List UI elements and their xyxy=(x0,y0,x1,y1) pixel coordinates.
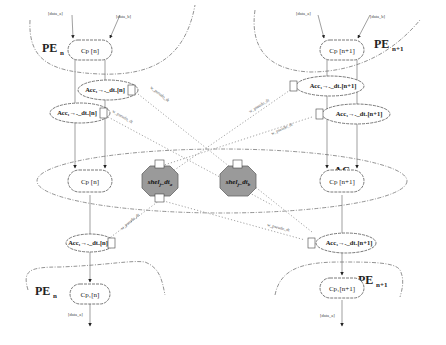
link-label-5: w_pseudo_dt xyxy=(119,212,140,231)
link-label-2: w_pseudo_dt xyxy=(112,109,135,125)
input-label-tr-a: [data_a] xyxy=(296,11,311,16)
svg-text:Acc₁→ₐ_dtₐ[n+1]: Acc₁→ₐ_dtₐ[n+1] xyxy=(326,239,373,247)
shelter-right: shelj_dtb xyxy=(220,160,256,196)
svg-text:Cp [n+1]: Cp [n+1] xyxy=(329,178,355,186)
dotted-link-6 xyxy=(160,200,305,240)
input-label-tl-a: [data_a] xyxy=(48,11,63,16)
node-cp-n1-top: Cp [n+1] xyxy=(320,40,364,60)
diagram-canvas: PE n PE n+1 PE n PE n+1 AC m [data_a] [d… xyxy=(0,0,446,345)
svg-text:PE: PE xyxy=(35,284,50,298)
pe-label-bottom-left: PE n xyxy=(35,284,57,300)
shelter-left-port-top xyxy=(155,160,164,168)
node-acc-n1-c: Acc₁→ₐ_dtₐ[n+1] xyxy=(308,233,376,253)
svg-text:n+1: n+1 xyxy=(392,45,404,53)
input-arrow-tr-a xyxy=(318,15,324,38)
shelter-right-port-top xyxy=(233,160,242,168)
node-cp-n1-mid: Cp [n+1] xyxy=(320,170,364,192)
svg-text:Cp [n]: Cp [n] xyxy=(81,47,99,55)
node-acc-n-a: Acc₁→ₐ_dtₐ[n] xyxy=(78,80,138,100)
svg-text:Acc₁→ₐ_dtₐ[n]: Acc₁→ₐ_dtₐ[n] xyxy=(85,86,125,94)
output-label-bl: [data_a] xyxy=(68,312,83,317)
svg-text:Acc₁→ₐ_dtₐ[n+1]: Acc₁→ₐ_dtₐ[n+1] xyxy=(310,82,357,90)
svg-text:n+1: n+1 xyxy=(376,281,388,289)
svg-text:Acc₁→ₐ_dtₐ[n]: Acc₁→ₐ_dtₐ[n] xyxy=(68,239,108,247)
node-cp-n-bot: Cp₁[n] xyxy=(70,284,110,304)
input-label-tl-b: [data_b] xyxy=(116,14,131,19)
svg-text:n: n xyxy=(53,292,57,300)
link-label-4: w_pseudo_dt xyxy=(270,121,294,136)
svg-text:Cp [n+1]: Cp [n+1] xyxy=(329,47,355,55)
svg-text:PE: PE xyxy=(374,37,389,51)
node-acc-n-c: Acc₁→ₐ_dtₐ[n] xyxy=(66,234,115,252)
svg-text:Cp [n]: Cp [n] xyxy=(81,178,99,186)
node-cp-n-top: Cp [n] xyxy=(68,40,112,60)
svg-text:Acc₁→ₐ_dtₐ[n]: Acc₁→ₐ_dtₐ[n] xyxy=(57,109,97,117)
input-label-tr-b: [data_b] xyxy=(370,14,385,19)
shelter-left-port-bottom xyxy=(155,194,164,202)
svg-text:Acc₁→ₐ_dtₐ[n+1]: Acc₁→ₐ_dtₐ[n+1] xyxy=(336,110,383,118)
link-label-3: w_pseudo_dt xyxy=(248,97,271,114)
shelter-left: shelj_dta xyxy=(142,160,178,202)
pe-label-top-left: PE n xyxy=(42,41,64,57)
output-label-br: [data_a] xyxy=(320,313,335,318)
link-label-1: w_pseudo_dt xyxy=(149,85,171,104)
input-arrow-tr-b xyxy=(358,15,370,38)
svg-text:Cp₁[n+1]: Cp₁[n+1] xyxy=(329,285,355,293)
node-cp-n-mid: Cp [n] xyxy=(68,170,112,192)
svg-text:n: n xyxy=(60,49,64,57)
node-acc-n-b: Acc₁→ₐ_dtₐ[n] xyxy=(50,103,110,123)
input-arrow-tl-a xyxy=(72,15,73,38)
node-acc-n1-a: Acc₁→ₐ_dtₐ[n+1] xyxy=(290,76,364,96)
node-cp-n1-bot: Cp₁[n+1] xyxy=(320,278,364,298)
link-label-6: w_pseudo_dt xyxy=(267,222,291,233)
pe-label-top-right: PE n+1 xyxy=(374,37,404,53)
svg-text:PE: PE xyxy=(42,41,57,55)
svg-text:Cp₁[n]: Cp₁[n] xyxy=(81,291,100,299)
